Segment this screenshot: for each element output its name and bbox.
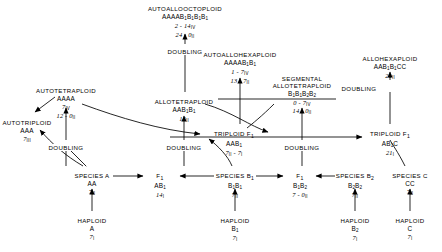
node-autoallooctoploid: AUTOALLOOCTOPLOIDAAAAB1B1B1B12 - 14IV24 … [148, 6, 222, 39]
node-genome-triploid-f1-right: AB1C [370, 140, 410, 148]
node-label-f1-ab1: F1 [154, 173, 166, 182]
node-label-autoallooctoploid: AUTOALLOOCTOPLOID [148, 6, 222, 13]
node-config-segmental-allotetraploid-1: 14 - 0II [273, 107, 332, 115]
node-label-allohexaploid: ALLOHEXAPLOID [362, 56, 417, 63]
node-config-f1-ab1-0: 14I [154, 191, 166, 199]
node-config-segmental-allotetraploid-0: 0 - 7IV [273, 99, 332, 107]
node-genome-autoallooctoploid: AAAAB1B1B1B1 [148, 13, 222, 21]
doubling-hexaploid: DOUBLING [340, 85, 377, 92]
node-allotetraploid: ALLOTETRAPLOIDAAB1B114II [155, 99, 214, 123]
node-species-a: SPECIES AAA7II [75, 173, 110, 196]
node-triploid-f1-right: TRIPLOID F1AB1C21I [370, 131, 410, 157]
node-genome-haploid-a: A [77, 225, 106, 232]
node-label-autoallohexaploid: AUTOALLOHEXAPLOID [203, 52, 276, 59]
node-genome-segmental-allotetraploid: B1B1B2B2 [273, 90, 332, 98]
node-species-b1: SPECIES B1B1B17II [216, 173, 255, 199]
node-f1-b1b2: F1B1B27 - 0II [292, 173, 308, 199]
node-config-autoallooctoploid-1: 24 - 0II [148, 31, 222, 39]
edge-segmental-to-triploid-left [247, 104, 274, 128]
node-label-species-c: SPECIES C [392, 173, 428, 180]
node-config-autoallooctoploid-0: 2 - 14IV [148, 22, 222, 30]
node-genome-species-c: CC [392, 180, 428, 187]
node-autoallohexaploid: AUTOALLOHEXAPLOIDAAAAB1B11 - 7IV13 - 7II [203, 52, 276, 85]
node-label-haploid-b2: HAPLOID [340, 218, 369, 225]
node-genome-haploid-c: C [395, 225, 424, 232]
node-genome-f1-ab1: AB1 [154, 182, 166, 190]
node-config-allohexaploid-0: 21II [362, 72, 417, 80]
node-label-species-a: SPECIES A [75, 173, 110, 180]
node-label-allotetraploid: ALLOTETRAPLOID [155, 99, 214, 106]
edge-species-a-link-up [70, 150, 86, 166]
node-label-species-b2: SPECIES B2 [336, 173, 375, 182]
node-genome-f1-b1b2: B1B2 [292, 182, 308, 190]
node-label-haploid-a: HAPLOID [77, 218, 106, 225]
polyploidy-diagram: AUTOALLOOCTOPLOIDAAAAB1B1B1B12 - 14IV24 … [0, 0, 442, 252]
node-config-f1-b1b2-0: 7 - 0II [292, 191, 308, 199]
node-autotetraploid: AUTOTETRAPLOIDAAAA7IV12 - 0II [36, 88, 96, 120]
node-label-autotetraploid: AUTOTETRAPLOID [36, 88, 96, 95]
node-species-c: SPECIES CCC7II [392, 173, 428, 196]
node-haploid-c: HAPLOIDC7I [395, 218, 424, 241]
node-genome-species-b1: B1B1 [216, 182, 255, 190]
node-config-species-c-0: 7II [392, 188, 428, 196]
doubling-allotetraploid: DOUBLING [165, 144, 202, 151]
doubling-autotetraploid: DOUBLING [47, 144, 84, 151]
node-segmental-allotetraploid: SEGMENTALALLOTETRAPLOIDB1B1B2B20 - 7IV14… [273, 76, 332, 115]
node-f1-ab1: F1AB114I [154, 173, 166, 199]
node-config-species-a-0: 7II [75, 188, 110, 196]
node-label-haploid-c: HAPLOID [395, 218, 424, 225]
node-genome-species-a: AA [75, 180, 110, 187]
node-haploid-a: HAPLOIDA7I [77, 218, 106, 241]
node-genome-haploid-b2: B2 [340, 225, 369, 233]
doubling-segmental: DOUBLING [283, 144, 320, 151]
node-genome-autotetraploid: AAAA [36, 95, 96, 102]
node-genome-autoallohexaploid: AAAAB1B1 [203, 59, 276, 67]
node-label-autotriploid: AUTOTRIPLOID [2, 120, 51, 127]
node-config-autotriploid-0: 7III [2, 135, 51, 143]
node-autotriploid: AUTOTRIPLOIDAAA7III [2, 120, 51, 143]
node-genome-haploid-b1: B1 [220, 225, 249, 233]
node-genome-allohexaploid: AAB1B1CC [362, 63, 417, 71]
node-label-segmental-allotetraploid: SEGMENTALALLOTETRAPLOID [273, 76, 332, 90]
node-label-triploid-f1-right: TRIPLOID F1 [370, 131, 410, 140]
node-label-haploid-b1: HAPLOID [220, 218, 249, 225]
node-species-b2: SPECIES B2B2B27II [336, 173, 375, 199]
node-config-autoallohexaploid-0: 1 - 7IV [203, 68, 276, 76]
node-config-autoallohexaploid-1: 13 - 7II [203, 77, 276, 85]
node-triploid-f1-left: TRIPLOID F1AAB17II - 7I [214, 131, 254, 157]
node-genome-allotetraploid: AAB1B1 [155, 106, 214, 114]
node-genome-autotriploid: AAA [2, 127, 51, 134]
node-config-haploid-c-0: 7I [395, 233, 424, 241]
node-allohexaploid: ALLOHEXAPLOIDAAB1B1CC21II [362, 56, 417, 80]
node-config-allotetraploid-0: 14II [155, 115, 214, 123]
node-config-species-b2-0: 7II [336, 191, 375, 199]
node-config-triploid-f1-right-0: 21I [370, 149, 410, 157]
node-genome-species-b2: B2B2 [336, 182, 375, 190]
node-genome-triploid-f1-left: AAB1 [214, 140, 254, 148]
node-config-haploid-a-0: 7I [77, 233, 106, 241]
node-config-triploid-f1-left-0: 7II - 7I [214, 149, 254, 157]
doubling-octoploid: DOUBLING [166, 48, 203, 55]
node-label-f1-b1b2: F1 [292, 173, 308, 182]
node-config-species-b1-0: 7II [216, 191, 255, 199]
node-config-haploid-b2-0: 7I [340, 234, 369, 242]
node-label-species-b1: SPECIES B1 [216, 173, 255, 182]
edge-allotetraploid-to-triploid-right [205, 104, 268, 132]
node-label-triploid-f1-left: TRIPLOID F1 [214, 131, 254, 140]
node-config-haploid-b1-0: 7I [220, 234, 249, 242]
node-haploid-b1: HAPLOIDB17I [220, 218, 249, 242]
node-config-autotetraploid-0: 7IV [36, 103, 96, 111]
node-haploid-b2: HAPLOIDB27I [340, 218, 369, 242]
